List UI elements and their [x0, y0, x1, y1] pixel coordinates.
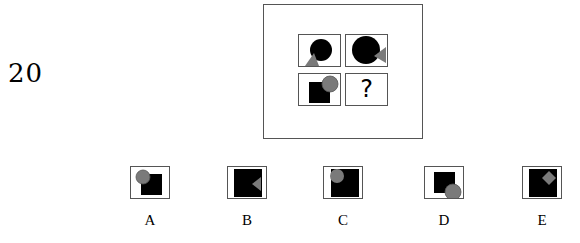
puzzle-matrix: [263, 4, 423, 139]
matrix-cell-r2c1: [298, 73, 341, 106]
large-square-diamond-icon: [523, 167, 562, 199]
option-d-label: D: [424, 212, 464, 229]
option-a-label: A: [130, 212, 170, 229]
option-a[interactable]: [130, 166, 170, 199]
option-e[interactable]: [522, 166, 562, 199]
option-c-label: C: [323, 212, 363, 229]
large-square-triangle-icon: [228, 167, 267, 199]
large-circle-triangle-icon: [346, 35, 388, 67]
option-b-label: B: [227, 212, 267, 229]
matrix-cell-r1c1: [298, 34, 341, 67]
question-mark: ?: [346, 74, 387, 105]
square-circle-top-left-icon: [131, 167, 170, 199]
question-number: 20: [8, 58, 43, 88]
large-square-circle-icon: [324, 167, 363, 199]
square-circle-bottom-right-icon: [425, 167, 464, 199]
square-circle-icon: [299, 74, 341, 106]
circle-triangle-icon: [299, 35, 341, 67]
matrix-cell-r1c2: [345, 34, 388, 67]
matrix-cell-missing: ?: [345, 73, 388, 106]
option-c[interactable]: [323, 166, 363, 199]
option-d[interactable]: [424, 166, 464, 199]
option-e-label: E: [522, 212, 562, 229]
option-b[interactable]: [227, 166, 267, 199]
